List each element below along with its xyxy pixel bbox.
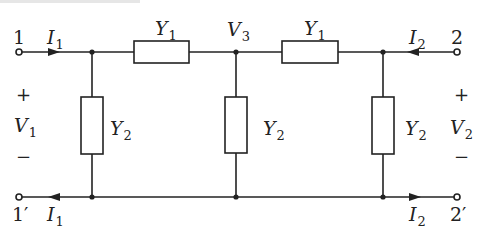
terminal-1 <box>16 49 22 55</box>
terminal-2 <box>454 49 460 55</box>
current-label-i2-top: I2 <box>409 28 426 47</box>
current-label-i2-bottom: I2 <box>409 205 426 224</box>
voltage-label-v2: V2 <box>450 118 473 137</box>
junction-dot <box>89 49 94 54</box>
terminal-label-2: 2 <box>451 28 463 47</box>
admittance-label-y1-right: Y1 <box>304 19 326 38</box>
current-label-i1-bottom: I1 <box>47 205 64 224</box>
admittance-label-y2-left: Y2 <box>110 119 132 138</box>
junction-dot <box>89 194 94 199</box>
current-label-i1-top: I1 <box>47 28 64 47</box>
terminal-label-1: 1 <box>13 28 25 47</box>
junction-dot <box>380 49 385 54</box>
admittance-label-y2-right: Y2 <box>405 119 427 138</box>
admittance-label-y1-left: Y1 <box>155 19 177 38</box>
arrow-left-icon <box>48 193 60 201</box>
admittance-label-y2-middle: Y2 <box>263 119 285 138</box>
v2-plus-sign: + <box>454 86 469 104</box>
resistor-y2-middle <box>225 97 247 153</box>
resistor-y2-right <box>372 97 394 154</box>
v1-plus-sign: + <box>16 86 31 104</box>
terminal-label-2-prime: 2′ <box>450 205 466 224</box>
junction-dot <box>380 194 385 199</box>
terminal-1-prime <box>16 194 22 200</box>
voltage-label-v3: V3 <box>227 20 250 39</box>
junction-dot <box>233 194 238 199</box>
junction-dot-v3 <box>233 49 238 54</box>
arrow-right-icon <box>409 193 421 201</box>
terminal-label-1-prime: 1′ <box>12 205 28 224</box>
terminal-2-prime <box>454 194 460 200</box>
voltage-label-v1: V1 <box>14 116 37 135</box>
v2-minus-sign: − <box>454 148 469 166</box>
v1-minus-sign: − <box>16 148 31 166</box>
resistor-y1-left <box>134 41 189 63</box>
resistor-y2-left <box>81 97 103 154</box>
resistor-y1-right <box>282 41 338 63</box>
